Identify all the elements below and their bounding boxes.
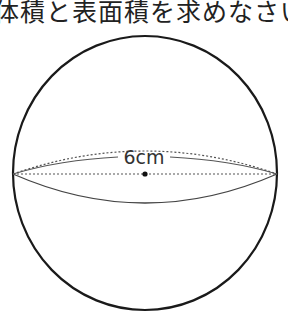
diameter-label: 6cm xyxy=(123,146,164,168)
equator-front xyxy=(13,174,277,203)
center-point xyxy=(142,171,147,176)
dimension-line-left xyxy=(13,157,118,174)
sphere-diagram: 6cm xyxy=(0,0,288,321)
